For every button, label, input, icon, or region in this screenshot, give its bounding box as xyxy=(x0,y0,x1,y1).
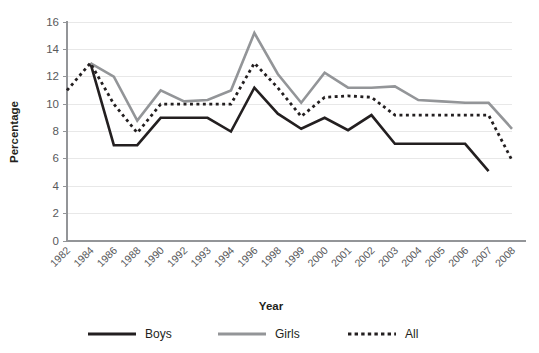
chart-canvas: 0246810121416 19821984198619881990199219… xyxy=(0,0,539,353)
gridlines-group xyxy=(63,22,512,241)
x-axis-title: Year xyxy=(259,300,284,312)
y-tick-label: 10 xyxy=(46,98,59,110)
x-tick-label: 1999 xyxy=(282,244,307,269)
x-tick-label: 1990 xyxy=(141,244,166,269)
y-tick-label: 2 xyxy=(53,207,59,219)
x-tick-label: 1993 xyxy=(188,244,213,269)
x-tick-label: 2005 xyxy=(422,244,447,269)
y-tick-label: 12 xyxy=(46,70,59,82)
x-tick-label: 1986 xyxy=(94,244,119,269)
x-tick-label: 1996 xyxy=(235,244,260,269)
x-tick-label: 1992 xyxy=(165,244,190,269)
series-line-boys xyxy=(90,63,488,171)
x-tick-label: 2007 xyxy=(469,244,494,269)
chart-legend: BoysGirlsAll xyxy=(88,327,418,341)
y-tick-label: 4 xyxy=(53,180,60,192)
legend-label-boys: Boys xyxy=(145,327,172,341)
x-tick-label: 2002 xyxy=(352,244,377,269)
line-chart: 0246810121416 19821984198619881990199219… xyxy=(0,0,539,353)
x-tick-label: 2001 xyxy=(328,244,353,269)
x-tick-label: 1988 xyxy=(118,244,143,269)
x-tick-label: 1982 xyxy=(47,244,72,269)
x-tick-label: 1984 xyxy=(71,244,96,269)
x-tick-labels: 1982198419861988199019921993199419961998… xyxy=(47,244,517,269)
y-tick-label: 8 xyxy=(53,125,59,137)
series-line-girls xyxy=(90,33,512,129)
y-tick-label: 14 xyxy=(46,43,59,55)
y-tick-label: 6 xyxy=(53,152,59,164)
x-tick-label: 1994 xyxy=(211,244,236,269)
x-tick-label: 2008 xyxy=(492,244,517,269)
x-tick-label: 2003 xyxy=(375,244,400,269)
x-tick-label: 2004 xyxy=(399,244,424,269)
y-tick-label: 0 xyxy=(53,235,59,247)
legend-label-all: All xyxy=(405,327,418,341)
series-group xyxy=(67,33,512,171)
x-tick-label: 1998 xyxy=(258,244,283,269)
x-tick-label: 2006 xyxy=(446,244,471,269)
x-tick-label: 2000 xyxy=(305,244,330,269)
legend-label-girls: Girls xyxy=(275,327,300,341)
y-tick-label: 16 xyxy=(46,16,59,28)
y-axis-title: Percentage xyxy=(8,101,20,163)
y-tick-labels: 0246810121416 xyxy=(46,16,59,247)
